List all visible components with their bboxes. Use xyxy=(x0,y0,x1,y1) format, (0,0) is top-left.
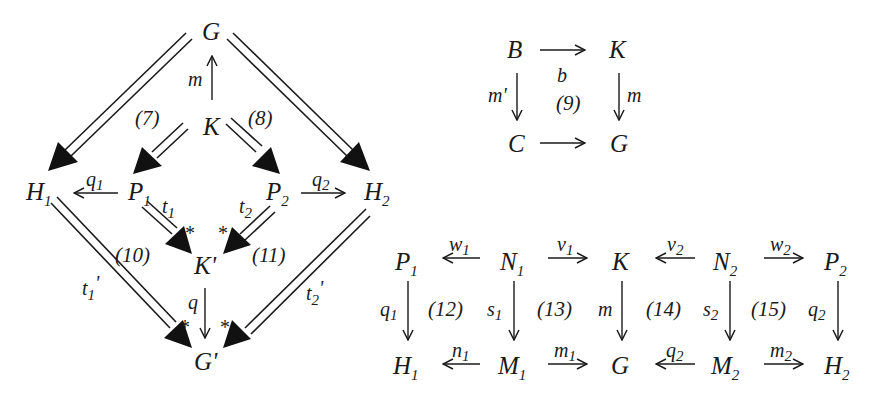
node-H1: H1 xyxy=(25,178,52,209)
label-t1-prime: t1' xyxy=(82,272,100,303)
label-s2: s2 xyxy=(703,298,719,323)
double-arrow-G-H1 xyxy=(48,33,192,171)
square-9-diagram: B K C G b m' m (9) xyxy=(488,36,641,157)
label-m-prime: m' xyxy=(488,84,507,106)
label-v2: v2 xyxy=(667,233,684,258)
node-H2: H2 xyxy=(363,178,390,209)
node-G-prime: G' xyxy=(194,348,218,375)
label-t2: t2 xyxy=(239,195,253,221)
label-m1: m1 xyxy=(554,339,576,364)
double-arrow-K-P1 xyxy=(133,123,188,174)
node-K: K xyxy=(608,36,627,63)
label-w2: w2 xyxy=(770,233,791,258)
star-marker: * xyxy=(220,316,230,338)
node-B: B xyxy=(507,36,522,63)
label-m: m xyxy=(188,68,202,90)
square-label-11: (11) xyxy=(252,243,285,267)
star-marker: * xyxy=(185,222,195,244)
label-q1: q1 xyxy=(380,298,398,323)
main-diagram: G K H1 P1 P2 H2 K' G' m q1 q2 t1 t2 t1' … xyxy=(25,18,390,375)
node-G: G xyxy=(202,18,220,45)
bottom-diagram: P1 N1 K N2 P2 H1 M1 G M2 H2 w1 v1 v2 w2 … xyxy=(380,233,850,383)
square-label-12: (12) xyxy=(428,297,463,321)
label-q1: q1 xyxy=(86,168,104,193)
label-w1: w1 xyxy=(449,233,470,258)
node-P1: P1 xyxy=(394,248,418,279)
square-label-14: (14) xyxy=(646,297,681,321)
star-marker: * xyxy=(218,222,228,244)
double-arrow-G-H2 xyxy=(227,33,370,171)
square-label-8: (8) xyxy=(248,106,273,130)
node-K-prime: K' xyxy=(193,252,217,279)
node-H2: H2 xyxy=(823,352,850,383)
square-label-10: (10) xyxy=(115,243,150,267)
label-m2: m2 xyxy=(770,339,792,364)
node-M2: M2 xyxy=(710,352,740,383)
node-N1: N1 xyxy=(499,248,524,279)
square-label-15: (15) xyxy=(751,297,786,321)
label-m: m xyxy=(598,298,612,320)
node-P1: P1 xyxy=(127,178,151,209)
node-G: G xyxy=(611,352,629,379)
label-n1: n1 xyxy=(452,339,470,364)
node-P2: P2 xyxy=(823,248,847,279)
label-q: q xyxy=(188,291,198,314)
node-C: C xyxy=(508,130,525,157)
node-P2: P2 xyxy=(265,178,289,209)
label-s1: s1 xyxy=(487,298,502,323)
square-label-13: (13) xyxy=(537,297,572,321)
node-K: K xyxy=(202,113,221,140)
label-t2-prime: t2' xyxy=(306,277,324,308)
label-q2: q2 xyxy=(312,168,330,193)
label-v1: v1 xyxy=(557,233,573,258)
square-label-7: (7) xyxy=(135,106,160,130)
node-G: G xyxy=(610,130,628,157)
label-q2-vertical: q2 xyxy=(808,298,826,323)
node-K: K xyxy=(611,248,630,275)
node-M1: M1 xyxy=(497,352,526,383)
star-marker: * xyxy=(180,316,190,338)
node-H1: H1 xyxy=(392,352,419,383)
label-q2: q2 xyxy=(666,339,684,364)
label-b: b xyxy=(557,64,567,86)
commutative-diagrams: G K H1 P1 P2 H2 K' G' m q1 q2 t1 t2 t1' … xyxy=(0,0,877,406)
label-m: m xyxy=(627,84,641,106)
square-label-9: (9) xyxy=(556,91,581,115)
node-N2: N2 xyxy=(712,248,738,279)
